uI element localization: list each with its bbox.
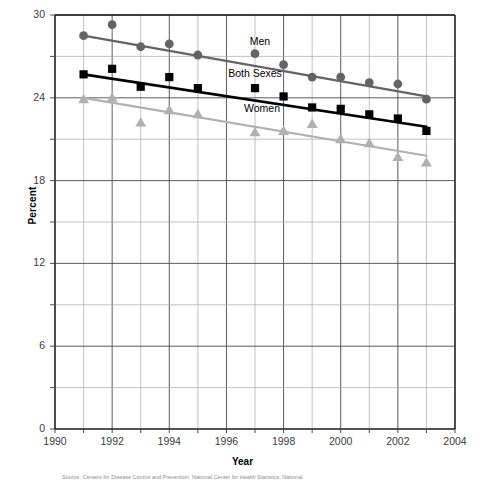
- data-point-square: [137, 83, 145, 91]
- data-point-square: [308, 103, 316, 111]
- data-point-circle: [365, 78, 374, 87]
- data-point-circle: [393, 80, 402, 89]
- data-point-triangle: [107, 92, 118, 101]
- data-point-circle: [136, 42, 145, 51]
- data-point-square: [279, 92, 287, 100]
- data-point-triangle: [307, 119, 318, 128]
- x-axis-title: Year: [0, 456, 485, 467]
- y-tick-label: 24: [11, 91, 45, 103]
- data-point-square: [251, 84, 259, 92]
- source-note-line-1: Source: Centers for Disease Control and …: [62, 474, 477, 480]
- x-tick-label: 2004: [432, 435, 478, 447]
- x-tick-label: 1996: [203, 435, 249, 447]
- chart-figure: MenBoth SexesWomen Percent Year 06121824…: [0, 0, 485, 487]
- x-tick-label: 1994: [146, 435, 192, 447]
- data-point-square: [422, 127, 430, 135]
- x-tick-label: 1998: [261, 435, 307, 447]
- x-tick-label: 1990: [32, 435, 78, 447]
- y-tick-label: 6: [11, 339, 45, 351]
- data-point-square: [394, 114, 402, 122]
- data-point-circle: [308, 73, 317, 82]
- data-point-triangle: [164, 105, 175, 114]
- data-point-circle: [108, 20, 117, 29]
- data-point-square: [79, 70, 87, 78]
- source-note: Source: Centers for Disease Control and …: [62, 474, 477, 487]
- x-tick-label: 2002: [375, 435, 421, 447]
- y-tick-label: 12: [11, 256, 45, 268]
- data-point-square: [365, 110, 373, 118]
- data-point-circle: [336, 73, 345, 82]
- y-tick-label: 30: [11, 8, 45, 20]
- data-point-circle: [193, 51, 202, 60]
- x-tick-label: 2000: [318, 435, 364, 447]
- series-label-women: Women: [244, 102, 280, 114]
- data-point-circle: [251, 49, 260, 58]
- data-point-circle: [79, 31, 88, 40]
- y-tick-label: 18: [11, 174, 45, 186]
- data-point-square: [337, 105, 345, 113]
- data-point-square: [108, 65, 116, 73]
- data-point-triangle: [421, 157, 432, 166]
- data-point-triangle: [192, 109, 203, 118]
- chart-canvas: MenBoth SexesWomen: [0, 0, 485, 487]
- data-point-triangle: [135, 117, 146, 126]
- x-tick-label: 1992: [89, 435, 135, 447]
- data-point-circle: [165, 40, 174, 49]
- data-point-circle: [422, 95, 431, 104]
- series-label-both-sexes: Both Sexes: [228, 67, 282, 79]
- series-label-men: Men: [250, 35, 271, 47]
- data-point-triangle: [335, 134, 346, 143]
- y-tick-label: 0: [11, 422, 45, 434]
- data-point-square: [165, 73, 173, 81]
- data-point-triangle: [392, 152, 403, 161]
- data-point-square: [194, 84, 202, 92]
